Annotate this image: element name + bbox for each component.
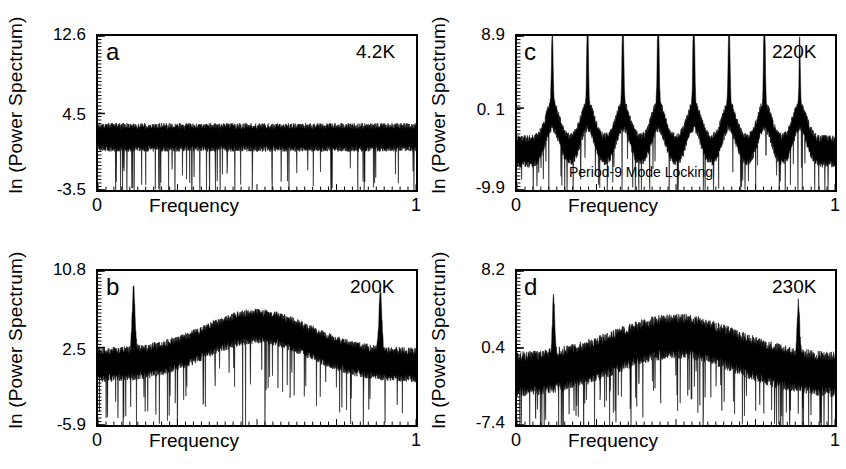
y-tick-b-mid: 2.5 <box>62 340 86 360</box>
x-axis-label-a: Frequency <box>149 195 239 217</box>
panel-letter-d: d <box>524 275 537 299</box>
y-tick-a-bottom: -3.5 <box>57 180 86 200</box>
y-tick-d-top: 8.2 <box>481 260 505 280</box>
panel-temperature-a: 4.2K <box>356 42 395 61</box>
x-axis-label-d: Frequency <box>568 430 658 452</box>
x-axis-label-c: Frequency <box>568 195 658 217</box>
panel-c: ln (Power Spectrum) 8.9 0. 1 -9.9 c 220K… <box>423 10 846 235</box>
panel-letter-a: a <box>106 40 119 64</box>
y-tick-c-mid: 0. 1 <box>477 100 505 120</box>
y-tick-c-bottom: -9.9 <box>476 178 505 198</box>
panel-letter-c: c <box>524 40 536 64</box>
y-tick-labels-d: 8.2 0.4 -7.4 <box>453 245 505 435</box>
y-tick-b-bottom: -5.9 <box>57 415 86 435</box>
panel-a: ln (Power Spectrum) 12.6 4.5 -3.5 a 4.2K… <box>0 10 423 235</box>
y-tick-a-top: 12.6 <box>53 25 86 45</box>
panel-b: ln (Power Spectrum) 10.8 2.5 -5.9 b 200K… <box>0 245 423 469</box>
x-tick-b-max: 1 <box>411 430 421 451</box>
y-tick-labels-a: 12.6 4.5 -3.5 <box>34 10 86 200</box>
y-tick-c-top: 8.9 <box>481 25 505 45</box>
x-tick-c-min: 0 <box>511 195 521 216</box>
x-tick-c-max: 1 <box>830 195 840 216</box>
x-tick-a-max: 1 <box>411 195 421 216</box>
x-tick-d-max: 1 <box>830 430 840 451</box>
y-tick-d-mid: 0.4 <box>481 338 505 358</box>
y-axis-label-a: ln (Power Spectrum) <box>2 10 30 200</box>
panel-letter-b: b <box>106 275 119 299</box>
y-tick-labels-b: 10.8 2.5 -5.9 <box>34 245 86 435</box>
panel-temperature-d: 230K <box>772 277 816 296</box>
annotation-period-9-mode-locking: Period-9 Mode Locking <box>569 165 713 179</box>
y-axis-label-c: ln (Power Spectrum) <box>425 10 453 200</box>
x-tick-a-min: 0 <box>92 195 102 216</box>
y-axis-label-b: ln (Power Spectrum) <box>2 245 30 435</box>
y-tick-a-mid: 4.5 <box>62 105 86 125</box>
x-tick-b-min: 0 <box>92 430 102 451</box>
x-axis-label-b: Frequency <box>149 430 239 452</box>
panel-temperature-b: 200K <box>350 277 394 296</box>
y-tick-labels-c: 8.9 0. 1 -9.9 <box>453 10 505 200</box>
x-tick-d-min: 0 <box>511 430 521 451</box>
figure-power-spectra: ln (Power Spectrum) 12.6 4.5 -3.5 a 4.2K… <box>0 0 846 469</box>
y-axis-label-d: ln (Power Spectrum) <box>425 245 453 435</box>
y-tick-b-top: 10.8 <box>53 260 86 280</box>
y-tick-d-bottom: -7.4 <box>476 413 505 433</box>
panel-temperature-c: 220K <box>772 42 816 61</box>
panel-d: ln (Power Spectrum) 8.2 0.4 -7.4 d 230K … <box>423 245 846 469</box>
